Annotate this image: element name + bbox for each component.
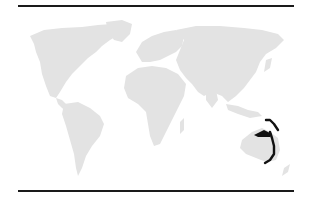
bottom-rule	[18, 190, 294, 192]
continents	[30, 20, 290, 176]
india	[206, 88, 218, 108]
new-zealand	[282, 164, 290, 176]
japan	[264, 58, 272, 72]
madagascar	[180, 118, 184, 134]
indonesia	[226, 104, 262, 118]
europe	[136, 30, 184, 62]
solomon-arc-highlight	[266, 120, 278, 130]
south-america	[62, 102, 104, 176]
africa	[124, 66, 186, 146]
world-map	[0, 0, 309, 200]
